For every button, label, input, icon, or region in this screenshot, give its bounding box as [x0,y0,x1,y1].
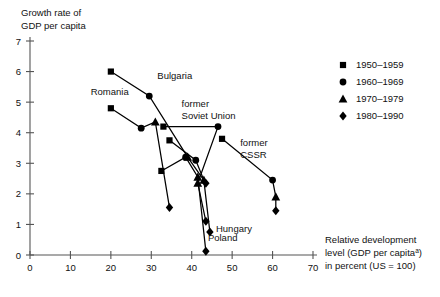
marker-circle [138,125,145,132]
x-tick-label: 0 [27,262,32,273]
marker-circle [182,154,189,161]
series-label: Soviet Union [182,110,236,121]
marker-square [219,136,225,142]
series-line [161,157,205,251]
series-romania: Romania [91,86,174,213]
marker-square [108,105,114,111]
marker-square [340,62,346,68]
legend-item-label: 1960–1969 [356,76,404,87]
series-label: CSSR [240,149,267,160]
series-label: Poland [208,232,238,243]
marker-triangle [271,192,280,200]
y-axis-title-line: GDP per capita [21,20,86,31]
x-tick-label: 20 [106,262,117,273]
series-line [169,140,209,232]
x-axis-title-line: Relative development [325,234,417,245]
x-tick-label: 30 [146,262,157,273]
marker-square [158,168,164,174]
marker-square [166,137,172,143]
marker-circle [192,157,199,164]
legend-item-label: 1980–1990 [356,110,404,121]
marker-triangle [339,94,348,102]
marker-diamond [339,112,346,121]
x-axis-title-line: in percent (US = 100) [325,260,416,271]
marker-circle [146,93,153,100]
x-axis-title: Relative developmentlevel (GDP per capit… [325,234,422,271]
y-tick-label: 7 [16,36,21,47]
marker-circle [215,123,222,130]
y-tick-label: 5 [16,97,21,108]
growth-vs-development-scatter-chart: 01020304050607001234567Growth rate ofGDP… [0,0,440,297]
marker-circle [269,177,276,184]
y-tick-label: 4 [16,127,21,138]
x-tick-label: 40 [186,262,197,273]
x-axis-title-line: level (GDP per capitaa) [325,247,422,259]
chart-container: 01020304050607001234567Growth rate ofGDP… [0,0,440,297]
y-tick-label: 0 [16,250,21,261]
legend: 1950–19591960–19691970–19791980–1990 [339,59,404,121]
y-tick-label: 2 [16,188,21,199]
y-axis-title-line: Growth rate of [21,7,82,18]
x-tick-label: 50 [227,262,238,273]
legend-item-label: 1970–1979 [356,93,404,104]
x-tick-label: 70 [308,262,319,273]
y-axis-title: Growth rate ofGDP per capita [21,7,86,31]
series-label: Bulgaria [157,70,193,81]
y-tick-label: 3 [16,158,21,169]
marker-diamond [166,203,173,212]
y-tick-label: 1 [16,219,21,230]
legend-item-label: 1950–1959 [356,59,404,70]
marker-circle [340,79,347,86]
x-tick-label: 10 [65,262,76,273]
series-label: Romania [91,86,130,97]
series-label: former [182,98,209,109]
y-tick-label: 6 [16,66,21,77]
marker-diamond [272,206,279,215]
x-tick-label: 60 [267,262,278,273]
series-line [111,108,170,207]
series-label: former [240,137,267,148]
marker-square [108,68,114,74]
marker-square [160,124,166,130]
series-former-cssr: formerCSSR [219,136,280,215]
marker-triangle [151,117,160,125]
